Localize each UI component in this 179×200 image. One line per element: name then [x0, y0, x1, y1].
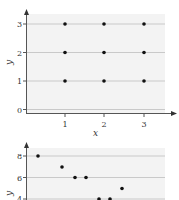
chart-1-y-axis-label: y [4, 59, 14, 66]
chart-1-y-axis-arrow-icon [24, 9, 29, 15]
chart-2-axes [23, 147, 27, 200]
chart-1-xtick: 1 [63, 120, 68, 129]
chart-1-x-axis-label: x [93, 128, 98, 138]
figure: 3 2 1 0 1 2 3 x y 8 6 4 y [0, 0, 179, 200]
chart-1-ytick: 0 [17, 106, 22, 115]
chart-2-ytick: 4 [17, 195, 22, 200]
chart-2: 8 6 4 y [4, 142, 165, 200]
chart-2-ytick: 6 [17, 174, 22, 183]
chart-1-xtick: 2 [102, 120, 107, 129]
chart-1: 3 2 1 0 1 2 3 x y [4, 9, 177, 138]
chart-1-plot-area [27, 14, 165, 113]
chart-1-x-axis-arrow-icon [171, 111, 177, 116]
chart-2-y-axis-label: y [4, 190, 14, 197]
chart-1-ytick: 3 [17, 20, 22, 29]
chart-1-xtick: 3 [142, 120, 147, 129]
chart-1-ytick: 1 [17, 77, 22, 86]
chart-2-ytick: 8 [17, 152, 22, 161]
chart-2-y-axis-arrow-icon [24, 142, 29, 148]
chart-1-ytick: 2 [17, 49, 22, 58]
